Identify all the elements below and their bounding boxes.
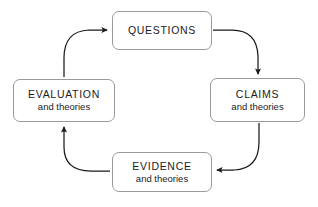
arrow-evidence-to-evaluation — [64, 127, 110, 171]
node-claims-title: CLAIMS — [236, 88, 279, 101]
node-evaluation-title: EVALUATION — [28, 88, 100, 101]
arrow-questions-to-claims — [213, 30, 258, 74]
node-questions-title: QUESTIONS — [128, 24, 196, 37]
node-questions[interactable]: QUESTIONS — [112, 11, 212, 50]
node-evaluation-subtitle: and theories — [38, 101, 90, 113]
node-evaluation[interactable]: EVALUATION and theories — [13, 79, 115, 122]
node-evidence[interactable]: EVIDENCE and theories — [112, 152, 212, 192]
node-evidence-title: EVIDENCE — [132, 160, 191, 173]
node-evidence-subtitle: and theories — [136, 173, 188, 185]
arrow-claims-to-evidence — [217, 123, 259, 170]
node-claims-subtitle: and theories — [231, 101, 283, 113]
arrow-evaluation-to-questions — [64, 30, 107, 77]
cycle-diagram: QUESTIONS CLAIMS and theories EVIDENCE a… — [0, 0, 318, 207]
node-claims[interactable]: CLAIMS and theories — [210, 78, 305, 122]
